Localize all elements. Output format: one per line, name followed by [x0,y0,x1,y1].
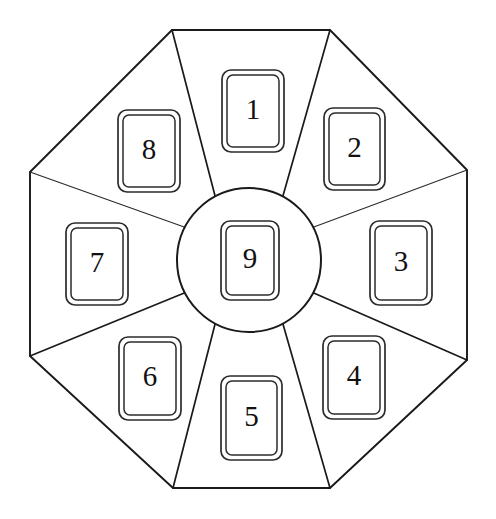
card-5-label: 5 [244,400,259,432]
diagram-root: 123456789 [0,0,496,519]
card-8[interactable]: 8 [118,110,180,192]
card-3[interactable]: 3 [370,221,432,305]
octagon-diagram: 123456789 [0,0,496,519]
card-2-label: 2 [347,131,362,163]
card-3-label: 3 [394,245,409,277]
card-5[interactable]: 5 [221,376,282,460]
card-2[interactable]: 2 [324,108,385,190]
card-4-label: 4 [347,359,362,391]
cards-group: 123456789 [66,70,432,460]
card-6[interactable]: 6 [119,337,181,420]
card-7[interactable]: 7 [66,223,128,305]
card-4[interactable]: 4 [323,336,385,419]
card-9-label: 9 [243,242,258,274]
card-1-label: 1 [246,93,261,125]
card-8-label: 8 [142,133,157,165]
card-7-label: 7 [90,246,105,278]
card-6-label: 6 [143,360,158,392]
card-9[interactable]: 9 [221,221,279,300]
card-1[interactable]: 1 [222,70,284,152]
